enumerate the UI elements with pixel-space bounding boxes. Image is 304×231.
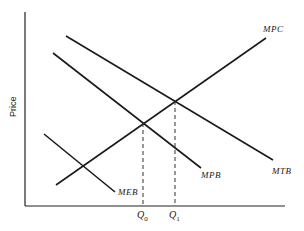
mpc-label: MPC	[263, 24, 284, 34]
mpb-curve	[53, 53, 201, 168]
q1-label: Q1	[169, 209, 180, 223]
externality-diagram: Price MPC MPB MTB MEB Q0 Q1	[0, 0, 304, 231]
mpc-curve	[56, 38, 266, 185]
meb-label: MEB	[118, 187, 138, 197]
mpb-label: MPB	[201, 170, 221, 180]
meb-curve	[44, 134, 115, 192]
chart-canvas	[0, 0, 304, 231]
mtb-label: MTB	[272, 166, 292, 176]
q0-subscript: 0	[144, 215, 148, 223]
y-axis-label: Price	[8, 96, 18, 117]
q1-subscript: 1	[176, 215, 180, 223]
q0-label: Q0	[137, 209, 148, 223]
